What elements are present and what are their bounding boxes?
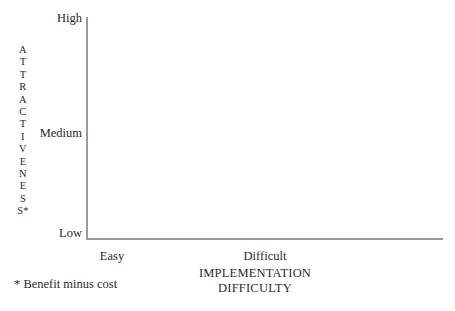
x-tick-label-difficult: Difficult	[225, 249, 305, 263]
y-axis-title-letter: C	[12, 106, 34, 118]
y-axis-title-letter: A	[12, 94, 34, 106]
x-axis-title-line-1: IMPLEMENTATION	[155, 266, 355, 281]
y-axis-title-letter: V	[12, 143, 34, 155]
y-axis-title-letter: R	[12, 81, 34, 93]
y-axis-title-letter: T	[12, 69, 34, 81]
y-axis-title-letter: I	[12, 131, 34, 143]
y-axis-title-letter: A	[12, 44, 34, 56]
attractiveness-implementation-difficulty-chart: High Medium Low Easy Difficult A T T R A…	[0, 0, 455, 311]
y-axis-title-letter: T	[12, 118, 34, 130]
y-axis-title-letter: N	[12, 168, 34, 180]
footnote-text: * Benefit minus cost	[14, 277, 117, 291]
x-axis-line	[86, 238, 443, 240]
y-axis-title-letter: E	[12, 180, 34, 192]
y-axis-line	[86, 17, 88, 240]
y-axis-title-letter: T	[12, 56, 34, 68]
y-tick-label-low: Low	[0, 226, 82, 240]
y-axis-title: A T T R A C T I V E N E S S*	[12, 44, 34, 218]
x-axis-title: IMPLEMENTATION DIFFICULTY	[155, 266, 355, 295]
y-axis-title-letter: S	[12, 193, 34, 205]
y-tick-label-high: High	[0, 11, 82, 25]
x-tick-label-easy: Easy	[82, 249, 142, 263]
x-axis-title-line-2: DIFFICULTY	[155, 281, 355, 296]
y-axis-title-letter: S*	[12, 205, 34, 217]
y-axis-title-letter: E	[12, 156, 34, 168]
